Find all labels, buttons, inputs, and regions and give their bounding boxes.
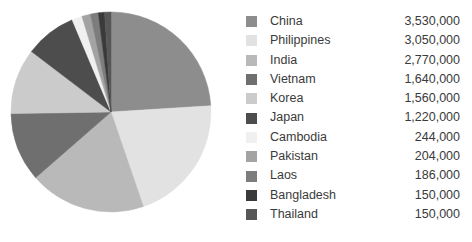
legend-value: 244,000 xyxy=(388,128,466,147)
legend-label: India xyxy=(270,51,388,70)
legend-color-swatch xyxy=(246,74,257,85)
chart-legend: China3,530,000Philippines3,050,000India2… xyxy=(246,12,466,224)
legend-value: 204,000 xyxy=(388,147,466,166)
legend-value: 1,640,000 xyxy=(388,70,466,89)
legend-row[interactable]: Philippines3,050,000 xyxy=(246,31,466,50)
legend-label: Korea xyxy=(270,89,388,108)
legend-label: Bangladesh xyxy=(270,186,388,205)
legend-row[interactable]: Japan1,220,000 xyxy=(246,108,466,127)
legend-row[interactable]: Bangladesh150,000 xyxy=(246,186,466,205)
legend-value: 2,770,000 xyxy=(388,51,466,70)
legend-row[interactable]: Korea1,560,000 xyxy=(246,89,466,108)
legend-row[interactable]: Cambodia244,000 xyxy=(246,128,466,147)
legend-color-swatch xyxy=(246,209,257,220)
legend-value: 150,000 xyxy=(388,186,466,205)
legend-row[interactable]: Pakistan204,000 xyxy=(246,147,466,166)
legend-value: 1,220,000 xyxy=(388,108,466,127)
legend-value: 186,000 xyxy=(388,166,466,185)
legend-value: 1,560,000 xyxy=(388,89,466,108)
legend-color-swatch xyxy=(246,93,257,104)
legend-color-swatch xyxy=(246,151,257,162)
legend-row[interactable]: Thailand150,000 xyxy=(246,205,466,224)
legend-value: 3,530,000 xyxy=(388,12,466,31)
legend-color-swatch xyxy=(246,55,257,66)
pie-svg xyxy=(10,11,212,213)
legend-label: Pakistan xyxy=(270,147,388,166)
legend-color-swatch xyxy=(246,113,257,124)
legend-color-swatch xyxy=(246,35,257,46)
pie-slice[interactable] xyxy=(111,12,211,112)
legend-row[interactable]: China3,530,000 xyxy=(246,12,466,31)
legend-label: Philippines xyxy=(270,31,388,50)
pie-chart-figure: China3,530,000Philippines3,050,000India2… xyxy=(0,0,472,242)
legend-row[interactable]: India2,770,000 xyxy=(246,51,466,70)
legend-value: 3,050,000 xyxy=(388,31,466,50)
legend-color-swatch xyxy=(246,16,257,27)
legend-value: 150,000 xyxy=(388,205,466,224)
legend-label: Thailand xyxy=(270,205,388,224)
legend-label: Cambodia xyxy=(270,128,388,147)
legend-label: China xyxy=(270,12,388,31)
legend-label: Japan xyxy=(270,108,388,127)
legend-color-swatch xyxy=(246,171,257,182)
legend-color-swatch xyxy=(246,190,257,201)
pie-plot-area xyxy=(10,11,212,213)
legend-row[interactable]: Vietnam1,640,000 xyxy=(246,70,466,89)
legend-label: Vietnam xyxy=(270,70,388,89)
legend-color-swatch xyxy=(246,132,257,143)
legend-row[interactable]: Laos186,000 xyxy=(246,166,466,185)
legend-label: Laos xyxy=(270,166,388,185)
